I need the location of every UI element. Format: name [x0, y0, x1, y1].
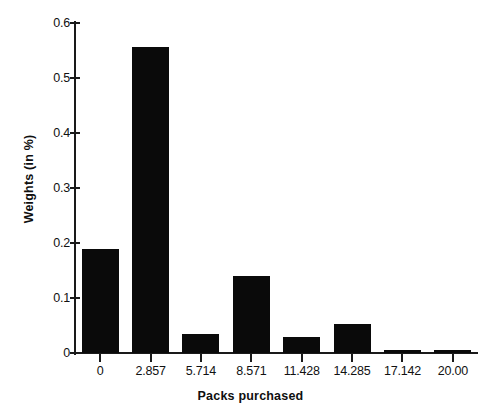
- bar-chart: 00.10.20.30.40.50.6 02.8575.7148.57111.4…: [0, 0, 501, 414]
- y-axis-tick: [70, 77, 80, 79]
- x-axis-tick: [452, 353, 454, 362]
- y-axis-tick: [70, 187, 80, 189]
- x-axis-tick: [401, 353, 403, 362]
- x-axis-tick: [250, 353, 252, 362]
- y-axis-tick: [70, 352, 80, 354]
- bar: [82, 249, 119, 354]
- x-axis-tick: [351, 353, 353, 362]
- x-axis-tick: [200, 353, 202, 362]
- y-axis-tick-label: 0.6: [34, 17, 70, 30]
- y-axis-tick: [70, 22, 80, 24]
- y-axis-tick: [70, 132, 80, 134]
- bar: [132, 47, 169, 353]
- y-axis-tick-label: 0.2: [34, 237, 70, 250]
- y-axis-tick-label: 0.4: [34, 127, 70, 140]
- y-axis-tick-label: 0.1: [34, 292, 70, 305]
- y-axis-tick-label: 0: [34, 347, 70, 360]
- y-axis-tick: [70, 297, 80, 299]
- y-axis-tick-label: 0.5: [34, 72, 70, 85]
- bar: [334, 324, 371, 353]
- y-axis-title: Weights (in %): [22, 104, 36, 254]
- bar: [182, 334, 219, 353]
- x-axis-tick: [150, 353, 152, 362]
- x-axis-tick: [301, 353, 303, 362]
- x-axis-title: Packs purchased: [0, 389, 501, 403]
- bar: [233, 276, 270, 353]
- x-axis-tick: [99, 353, 101, 362]
- bar: [283, 337, 320, 354]
- y-axis-tick-label: 0.3: [34, 182, 70, 195]
- y-axis-tick: [70, 242, 80, 244]
- x-axis-tick-label: 20.00: [423, 364, 483, 378]
